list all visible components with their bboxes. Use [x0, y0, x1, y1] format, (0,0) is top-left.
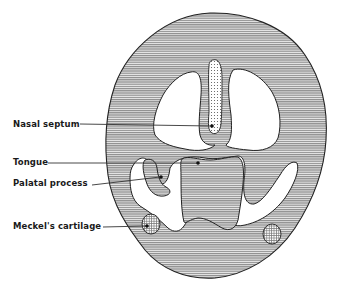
tongue [181, 157, 244, 230]
meckels-cartilage-left [142, 214, 160, 234]
meckels-cartilage-right [263, 224, 281, 244]
label-palatal-process: Palatal process [13, 178, 88, 188]
cross-section-diagram [0, 0, 337, 290]
head-outline [106, 13, 327, 278]
label-nasal-septum: Nasal septum [13, 119, 80, 129]
label-tongue: Tongue [13, 157, 48, 167]
label-meckels-cartilage: Meckel's cartilage [13, 221, 101, 231]
nasal-septum [208, 60, 222, 134]
